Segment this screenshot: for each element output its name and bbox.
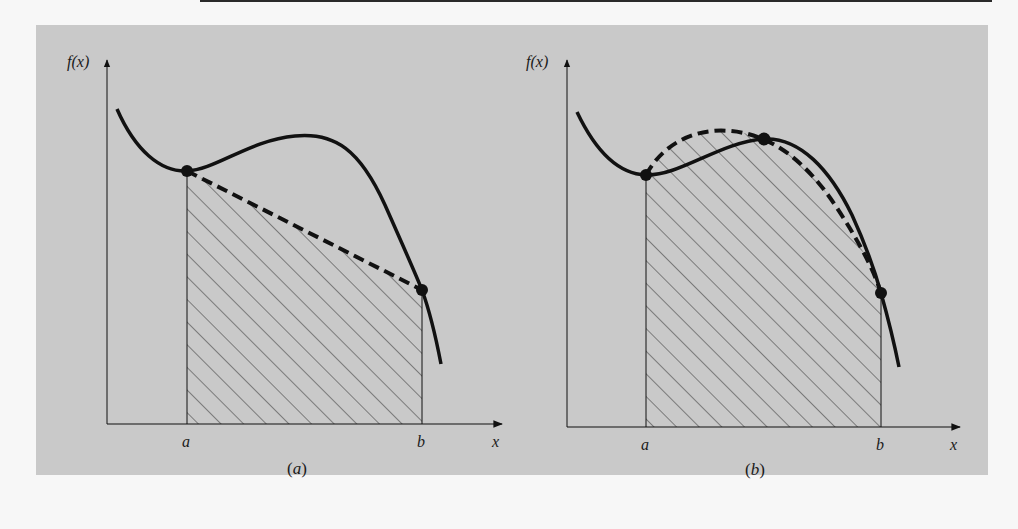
y-axis-label: f(x)	[67, 53, 89, 71]
tick-label-b: b	[876, 436, 884, 453]
tick-label-a: a	[641, 436, 649, 453]
x-axis-label: x	[491, 433, 499, 450]
tick-label-a: a	[182, 433, 190, 450]
y-axis-label: f(x)	[526, 53, 548, 71]
point-f-b	[416, 284, 428, 296]
caption-b: (b)	[745, 460, 765, 479]
panel-b: f(x) x a b (b)	[526, 53, 960, 479]
caption-a: (a)	[287, 459, 307, 478]
panel-a: f(x) x a b (a)	[67, 53, 502, 478]
point-f-a	[640, 169, 652, 181]
point-f-mid	[758, 133, 771, 146]
tick-label-b: b	[417, 433, 425, 450]
figure: f(x) x a b (a) f(x) x a b (b)	[0, 0, 1018, 529]
point-f-a	[181, 165, 193, 177]
x-axis-label: x	[949, 436, 957, 453]
point-f-b	[875, 287, 887, 299]
parabola-hatched-area	[646, 131, 881, 427]
